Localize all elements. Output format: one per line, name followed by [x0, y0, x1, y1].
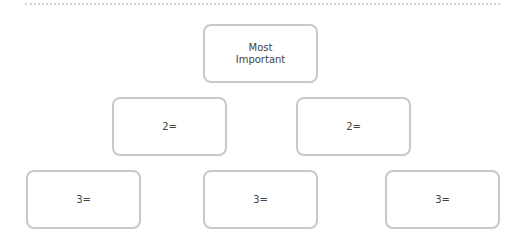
box-rank-2-right: 2=: [296, 97, 411, 156]
dotted-separator-line: [25, 3, 500, 5]
box-label: 3=: [76, 194, 91, 206]
box-label: 2=: [162, 121, 177, 133]
box-label: 3=: [435, 194, 450, 206]
box-most-important: Most Important: [203, 24, 318, 83]
box-rank-3-right: 3=: [385, 170, 500, 229]
box-label: Most Important: [236, 42, 286, 66]
box-rank-2-left: 2=: [112, 97, 227, 156]
box-rank-3-left: 3=: [26, 170, 141, 229]
box-rank-3-center: 3=: [203, 170, 318, 229]
box-label: 3=: [253, 194, 268, 206]
box-label: 2=: [346, 121, 361, 133]
